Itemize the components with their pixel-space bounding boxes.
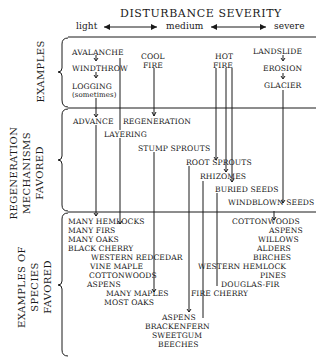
species-sweetgum: SWEETGUM (152, 331, 202, 340)
example-logging: LOGGING (72, 82, 112, 91)
section-label-regeneration-line3: FAVORED (33, 118, 46, 228)
species-pines: PINES (260, 271, 286, 280)
example-hot-fire-line1: HOT (215, 52, 233, 61)
section-label-examples: EXAMPLES (34, 43, 47, 103)
mechanism-advance: ADVANCE (73, 117, 114, 126)
species-most-oaks: MOST OAKS (104, 298, 154, 307)
mechanism-regeneration: REGENERATION (123, 117, 191, 126)
species-many-hemlocks: MANY HEMLOCKS (68, 217, 145, 226)
species-cottonwoods-left: COTTONWOODS (89, 271, 157, 280)
species-douglas-fir: DOUGLAS-FIR (221, 280, 279, 289)
species-aspens-right: ASPENS (269, 226, 303, 235)
section-label-regeneration-line2: MECHANISMS (20, 118, 33, 228)
species-beeches: BEECHES (158, 340, 199, 349)
species-fire-cherry: FIRE CHERRY (191, 289, 248, 298)
section-label-regeneration-line1: REGENERATION (7, 118, 20, 228)
example-landslide: LANDSLIDE (253, 47, 302, 56)
diagram-title: DISTURBANCE SEVERITY (120, 9, 282, 18)
example-avalanche: AVALANCHE (72, 48, 124, 57)
severity-medium-label: medium (166, 22, 203, 31)
example-glacier: GLACIER (264, 81, 301, 90)
section-label-species-line1: EXAMPLES OF SPECIES (15, 222, 41, 352)
species-birches: BIRCHES (253, 253, 291, 262)
severity-light-label: light (76, 22, 97, 31)
species-willows: WILLOWS (258, 235, 299, 244)
example-erosion: EROSION (263, 64, 302, 73)
species-aspens-bottom: ASPENS (162, 313, 196, 322)
species-western-hemlock: WESTERN HEMLOCK (198, 262, 286, 271)
section-label-species: EXAMPLES OF SPECIES FAVORED (15, 222, 43, 352)
mechanism-layering: LAYERING (104, 130, 147, 139)
mechanism-rhizomes: RHIZOMES (200, 172, 246, 181)
example-logging-note: (sometimes) (72, 91, 117, 100)
example-cool-fire-line1: COOL (141, 52, 165, 61)
species-brackenfern: BRACKENFERN (145, 322, 210, 331)
species-vine-maple: VINE MAPLE (90, 262, 143, 271)
species-many-firs: MANY FIRS (68, 226, 115, 235)
species-many-maples: MANY MAPLES (106, 289, 169, 298)
mechanism-stump-sprouts: STUMP SPROUTS (138, 144, 210, 153)
mechanism-buried-seeds: BURIED SEEDS (215, 185, 279, 194)
mechanism-windblown-seeds: WINDBLOWN SEEDS (228, 198, 314, 207)
species-aspens-left: ASPENS (87, 280, 121, 289)
species-western-redcedar: WESTERN REDCEDAR (91, 253, 183, 262)
severity-severe-label: severe (274, 22, 305, 31)
mechanism-root-sprouts: ROOT SPROUTS (186, 158, 252, 167)
species-many-oaks: MANY OAKS (68, 235, 119, 244)
example-hot-fire-line2: FIRE (213, 61, 233, 70)
example-windthrow: WINDTHROW (72, 64, 128, 73)
species-alders: ALDERS (257, 244, 291, 253)
example-cool-fire-line2: FIRE (143, 61, 163, 70)
section-label-species-line2: FAVORED (41, 222, 54, 352)
species-black-cherry: BLACK CHERRY (68, 244, 133, 253)
species-cottonwoods-right: COTTONWOODS (232, 217, 300, 226)
section-label-regeneration: REGENERATION MECHANISMS FAVORED (7, 118, 47, 228)
